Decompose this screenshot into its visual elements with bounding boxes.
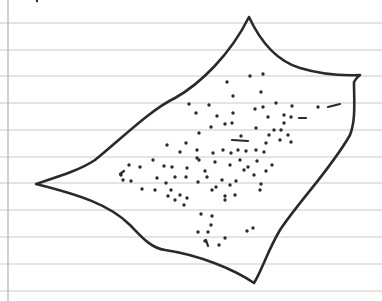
ink-dot (173, 175, 176, 178)
ink-dot (207, 103, 210, 106)
ink-dot (225, 80, 228, 83)
ink-dot (166, 194, 169, 197)
ink-dot (231, 111, 234, 114)
ruled-lines (0, 23, 382, 291)
ink-dot (197, 158, 200, 161)
ink-dot (206, 230, 209, 233)
ink-dot (195, 148, 198, 151)
ink-dot (162, 164, 165, 167)
ink-dot (251, 226, 254, 229)
ink-dot (140, 187, 143, 190)
ink-dot (215, 114, 218, 117)
ink-dot (316, 105, 319, 108)
ink-dot (205, 175, 208, 178)
top-ink-mark (36, 0, 38, 2)
ink-dot (290, 104, 293, 107)
scattered-dots (119, 72, 319, 246)
ink-dot (266, 115, 269, 118)
ink-dot (246, 165, 249, 168)
ink-dot (289, 140, 292, 143)
ink-dot (238, 158, 241, 161)
ink-dot (185, 196, 188, 199)
ink-dash (328, 104, 340, 107)
ink-dot (231, 94, 234, 97)
ink-dot (221, 148, 224, 151)
ink-dot (262, 150, 265, 153)
ink-dot (182, 203, 185, 206)
ink-dot (217, 243, 220, 246)
ink-dot (223, 122, 226, 125)
ink-dot (248, 74, 251, 77)
ink-dot (184, 141, 187, 144)
ink-dot (203, 169, 206, 172)
ink-dot (185, 166, 188, 169)
ink-dot (272, 128, 275, 131)
ink-dot (187, 102, 190, 105)
ink-dot (279, 128, 282, 131)
ink-dot (169, 188, 172, 191)
ink-dot (254, 148, 257, 151)
ink-dot (267, 133, 270, 136)
ink-dot (264, 169, 267, 172)
ink-dot (196, 180, 199, 183)
ink-dot (170, 165, 173, 168)
ink-dot (223, 194, 226, 197)
ink-dash (232, 140, 248, 141)
ink-dot (282, 121, 285, 124)
ink-dashes (120, 104, 340, 246)
ink-dot (214, 185, 217, 188)
ink-dot (173, 198, 176, 201)
ink-dot (199, 212, 202, 215)
ink-dot (245, 229, 248, 232)
ink-dot (127, 163, 130, 166)
ink-dot (230, 121, 233, 124)
ink-dot (244, 149, 247, 152)
ink-dot (178, 193, 181, 196)
ink-dot (239, 134, 242, 137)
ink-dot (165, 143, 168, 146)
ink-dot (252, 173, 255, 176)
ink-dot (264, 141, 267, 144)
ink-dot (220, 178, 223, 181)
ink-dot (138, 165, 141, 168)
ink-dot (286, 133, 289, 136)
ink-dot (121, 178, 124, 181)
ink-dot (129, 179, 132, 182)
ink-dot (213, 160, 216, 163)
ink-dash (206, 240, 208, 246)
ink-dot (178, 150, 181, 153)
ink-dot (228, 163, 231, 166)
ink-dot (209, 223, 212, 226)
ink-dot (254, 126, 257, 129)
ink-dot (242, 168, 245, 171)
ink-dot (233, 193, 236, 196)
ink-dot (274, 101, 277, 104)
ink-dot (223, 236, 226, 239)
ink-dot (223, 198, 226, 201)
ink-dash (120, 171, 124, 174)
ink-dot (234, 179, 237, 182)
ink-dot (209, 125, 212, 128)
ink-dot (229, 151, 232, 154)
ink-dot (261, 105, 264, 108)
sheet-drawing (0, 0, 382, 301)
ink-dot (211, 151, 214, 154)
ink-dot (228, 183, 231, 186)
ink-dot (282, 113, 285, 116)
ink-dot (164, 181, 167, 184)
ink-dot (236, 148, 239, 151)
ink-dot (278, 138, 281, 141)
ink-dot (196, 230, 199, 233)
ink-dot (261, 72, 264, 75)
ink-dot (151, 158, 154, 161)
ink-dot (255, 159, 258, 162)
ink-dot (184, 175, 187, 178)
ink-dot (259, 182, 262, 185)
ink-dot (197, 131, 200, 134)
ink-dot (253, 107, 256, 110)
ink-dot (258, 188, 261, 191)
ink-dot (155, 176, 158, 179)
ink-dot (153, 188, 156, 191)
notebook-page-sketch (0, 0, 382, 301)
ink-dot (194, 111, 197, 114)
